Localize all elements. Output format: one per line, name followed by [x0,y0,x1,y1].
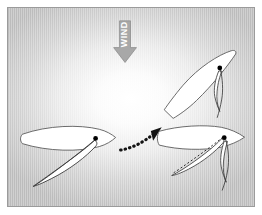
boat-upper-right [164,50,236,118]
figure-root: WIND [0,0,262,215]
boat-lower-right-hull [157,126,244,150]
tack-path-arrow-line [121,134,154,150]
boat-left-hull [21,126,116,150]
boat-left [21,126,116,186]
wind-arrow-group: WIND [114,21,137,63]
boat-left-mast-icon [93,136,98,141]
tack-path-arrow [121,127,162,150]
sailing-diagram-panel: WIND [7,7,255,207]
boat-upper-right-mast-icon [217,66,222,71]
wind-label: WIND [119,21,129,47]
boat-upper-right-hull [164,50,236,118]
boat-lower-right [157,126,244,190]
boat-lower-right-mast-icon [222,135,227,140]
sailing-diagram-canvas: WIND [8,8,254,206]
